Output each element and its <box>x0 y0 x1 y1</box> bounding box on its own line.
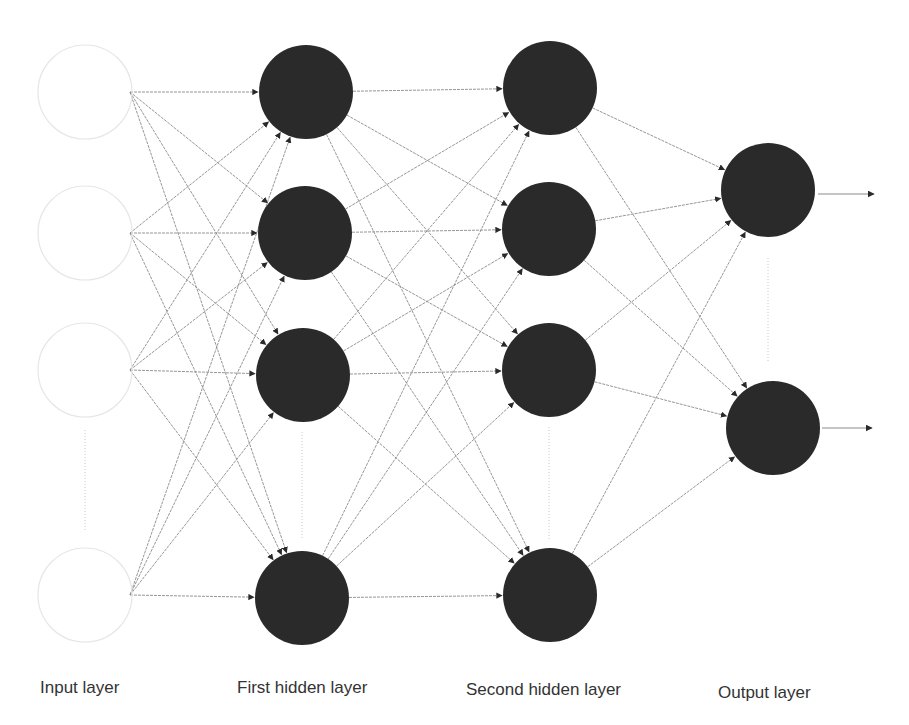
neuron-nodes <box>38 41 820 645</box>
layer-ellipsis-dots <box>85 258 768 540</box>
neural-network-diagram <box>0 0 909 725</box>
connection-edge <box>130 92 287 553</box>
hidden2-neuron <box>503 41 597 135</box>
hidden2-neuron <box>502 182 596 276</box>
connection-edge <box>130 413 273 595</box>
connection-edge <box>130 92 268 203</box>
connection-edge <box>345 112 508 209</box>
connection-edge <box>338 406 514 563</box>
connection-edge <box>331 272 523 555</box>
input-neuron <box>38 186 132 280</box>
hidden2-neuron <box>503 548 597 642</box>
connection-edge <box>595 198 720 220</box>
input-neuron <box>38 45 132 139</box>
connection-edge <box>594 382 726 416</box>
connection-edge <box>337 403 514 567</box>
output-layer-label: Output layer <box>718 683 811 703</box>
connection-edge <box>337 127 517 333</box>
second-hidden-layer-label: Second hidden layer <box>466 680 621 700</box>
connection-edge <box>130 233 282 555</box>
hidden1-neuron <box>259 45 353 139</box>
connection-edge <box>130 276 284 595</box>
connection-edge <box>350 371 501 374</box>
connection-edge <box>593 108 725 170</box>
hidden1-neuron <box>256 328 350 422</box>
connection-edge <box>130 92 278 334</box>
input-layer-label: Input layer <box>40 678 119 698</box>
connection-edge <box>353 89 502 91</box>
connection-edge <box>572 232 745 553</box>
connection-edge <box>130 370 255 374</box>
input-neuron <box>38 548 132 642</box>
connection-edges <box>130 89 747 598</box>
connection-edge <box>130 595 254 597</box>
hidden2-neuron <box>502 323 596 417</box>
hidden1-neuron <box>255 551 349 645</box>
connection-edge <box>130 122 269 233</box>
hidden1-neuron <box>258 186 352 280</box>
input-neuron <box>38 323 132 417</box>
output-arrows <box>818 194 874 428</box>
connection-edge <box>130 263 267 370</box>
output-neuron <box>726 381 820 475</box>
connection-edge <box>130 370 273 560</box>
first-hidden-layer-label: First hidden layer <box>237 678 367 698</box>
connection-edge <box>349 596 502 598</box>
connection-edge <box>328 269 522 559</box>
output-neuron <box>721 143 815 237</box>
connection-edge <box>584 260 737 396</box>
connection-edge <box>323 131 529 556</box>
connection-edge <box>347 115 507 205</box>
connection-edge <box>576 127 747 388</box>
connection-edge <box>327 134 530 552</box>
connection-edge <box>130 233 266 345</box>
connection-edge <box>588 457 735 567</box>
